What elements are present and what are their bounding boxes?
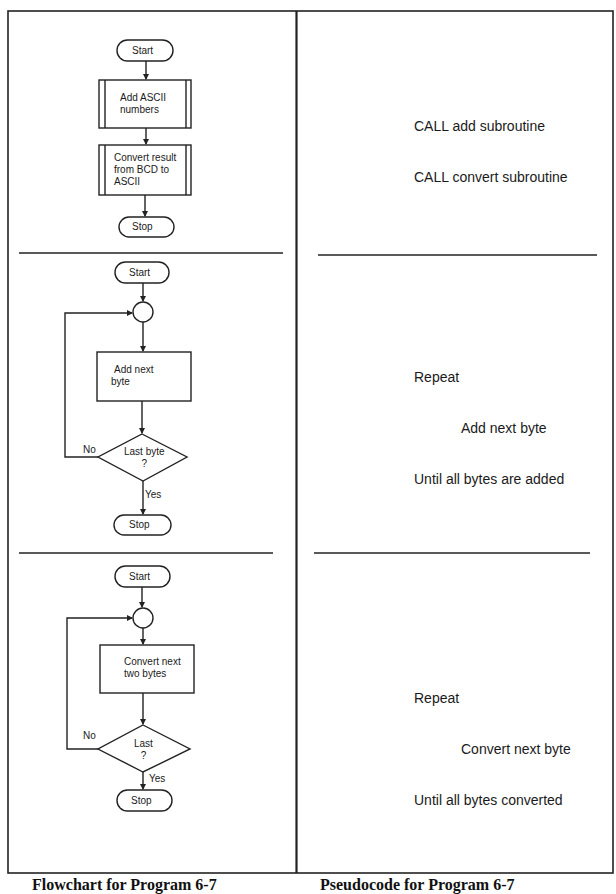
- step-line: from BCD to: [114, 164, 176, 176]
- step-line: Convert result: [114, 152, 176, 164]
- pseudo-line: Repeat: [414, 690, 571, 707]
- pseudo-line: CALL add subroutine: [414, 118, 568, 135]
- start-label: Start: [132, 45, 153, 57]
- decision-label: Last byte ?: [124, 446, 165, 470]
- yes-label: Yes: [145, 489, 161, 501]
- decision-line: ?: [124, 458, 165, 470]
- step-label-add-ascii: Add ASCII numbers: [120, 92, 166, 116]
- pseudocode-1: CALL add subroutine CALL convert subrout…: [414, 84, 568, 203]
- flowchart-2: [65, 262, 191, 535]
- pseudo-line: CALL convert subroutine: [414, 169, 568, 186]
- caption-pseudocode: Pseudocode for Program 6-7: [320, 876, 514, 894]
- decision-line: Last: [134, 738, 153, 750]
- pseudocode-2: Repeat Add next byte Until all bytes are…: [414, 335, 564, 505]
- stop-label: Stop: [129, 519, 150, 531]
- process-label: Convert next two bytes: [124, 656, 181, 680]
- process-line: two bytes: [124, 668, 181, 680]
- step-line: Add ASCII: [120, 92, 166, 104]
- decision-line: Last byte: [124, 446, 165, 458]
- process-line: byte: [111, 376, 153, 388]
- start-label: Start: [129, 267, 150, 279]
- stop-label: Stop: [131, 795, 152, 807]
- connector-circle: [133, 608, 153, 628]
- no-label: No: [83, 730, 96, 742]
- pseudo-line: Repeat: [414, 369, 564, 386]
- decision-label: Last ?: [134, 738, 153, 762]
- stop-label: Stop: [132, 221, 153, 233]
- step-label-convert: Convert result from BCD to ASCII: [114, 152, 176, 188]
- start-label: Start: [129, 571, 150, 583]
- yes-label: Yes: [149, 773, 165, 785]
- pseudo-line: Convert next byte: [414, 741, 571, 758]
- step-line: numbers: [120, 104, 166, 116]
- pseudo-line: Until all bytes converted: [414, 792, 571, 809]
- caption-flowchart: Flowchart for Program 6-7: [32, 876, 217, 894]
- flowchart-3: [67, 566, 194, 811]
- pseudo-line: Add next byte: [414, 420, 564, 437]
- step-line: ASCII: [114, 176, 176, 188]
- pseudocode-3: Repeat Convert next byte Until all bytes…: [414, 656, 571, 826]
- process-line: Add next: [111, 364, 153, 376]
- connector-circle: [133, 302, 153, 322]
- pseudo-line: Until all bytes are added: [414, 471, 564, 488]
- process-line: Convert next: [124, 656, 181, 668]
- process-label: Add next byte: [111, 364, 153, 388]
- no-label: No: [83, 444, 96, 456]
- decision-line: ?: [134, 750, 153, 762]
- flowchart-1: [99, 40, 191, 237]
